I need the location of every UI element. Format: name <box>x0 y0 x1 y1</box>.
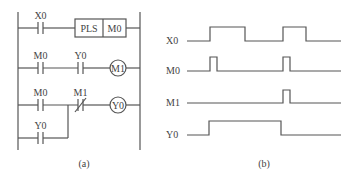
contact-label: X0 <box>34 10 46 21</box>
waveform-y0 <box>187 121 341 135</box>
signal-label: M1 <box>166 97 180 108</box>
ladder-diagram: X0 PLS M0 M0 Y0 M1 <box>18 10 140 170</box>
signal-label: M0 <box>166 65 180 76</box>
diagram-canvas: X0 PLS M0 M0 Y0 M1 <box>0 0 355 181</box>
caption-a: (a) <box>78 158 89 170</box>
waveform-m0 <box>187 57 341 71</box>
contact-label: M1 <box>74 87 88 98</box>
coil-label: M1 <box>111 63 125 74</box>
timing-diagram: X0 M0 M1 Y0 (b) <box>166 27 341 170</box>
rung-2: M0 Y0 M1 <box>18 50 140 76</box>
caption-b: (b) <box>258 158 270 170</box>
waveform-x0 <box>187 27 341 41</box>
operand-label: M0 <box>108 23 122 34</box>
signal-label: X0 <box>166 35 178 46</box>
instruction-label: PLS <box>80 23 97 34</box>
coil-label: Y0 <box>112 100 124 111</box>
rung-3: M0 M1 Y0 Y0 <box>18 87 140 144</box>
rung-1: X0 PLS M0 <box>18 10 140 37</box>
contact-label: M0 <box>34 87 48 98</box>
contact-label: Y0 <box>34 120 46 131</box>
waveform-m1 <box>187 90 341 103</box>
contact-label: Y0 <box>74 50 86 61</box>
signal-label: Y0 <box>166 129 178 140</box>
contact-label: M0 <box>34 50 48 61</box>
